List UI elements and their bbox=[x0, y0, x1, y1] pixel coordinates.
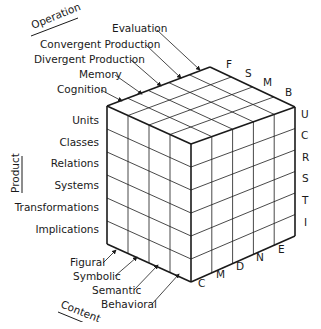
label-classes: Classes bbox=[59, 136, 99, 148]
letter-m2: M bbox=[216, 268, 225, 280]
letter-f: F bbox=[226, 58, 232, 70]
letter-m: M bbox=[263, 76, 272, 88]
label-cognition: Cognition bbox=[57, 83, 107, 95]
letter-n: N bbox=[256, 251, 264, 263]
label-memory: Memory bbox=[79, 68, 122, 80]
letter-b: B bbox=[285, 86, 292, 98]
label-transformations: Transformations bbox=[14, 201, 99, 213]
letter-i: I bbox=[304, 216, 307, 228]
letter-s: S bbox=[245, 67, 252, 79]
structure-of-intellect-diagram: Operation Evaluation Convergent Producti… bbox=[0, 0, 321, 329]
label-units: Units bbox=[72, 114, 99, 126]
letter-e: E bbox=[278, 243, 285, 255]
letter-c: C bbox=[301, 129, 308, 141]
letter-c2: C bbox=[198, 277, 205, 289]
label-divergent-production: Divergent Production bbox=[34, 53, 145, 65]
letter-u: U bbox=[301, 108, 309, 120]
label-implications: Implications bbox=[35, 223, 99, 235]
product-axis-title: Product bbox=[9, 153, 22, 193]
letter-t: T bbox=[301, 194, 309, 206]
label-convergent-production: Convergent Production bbox=[40, 38, 160, 50]
content-axis-title: Content bbox=[58, 298, 102, 326]
svg-text:Content: Content bbox=[59, 298, 102, 325]
cube-grid bbox=[107, 67, 295, 282]
label-symbolic: Symbolic bbox=[73, 270, 121, 282]
svg-text:Product: Product bbox=[9, 153, 21, 193]
label-figural: Figural bbox=[70, 256, 105, 268]
label-behavioral: Behavioral bbox=[101, 298, 157, 310]
letter-d: D bbox=[236, 260, 244, 272]
letter-r: R bbox=[302, 151, 309, 163]
operation-axis-title: Operation bbox=[29, 0, 82, 36]
label-relations: Relations bbox=[51, 157, 99, 169]
letter-s2: S bbox=[302, 172, 309, 184]
label-systems: Systems bbox=[54, 179, 99, 191]
